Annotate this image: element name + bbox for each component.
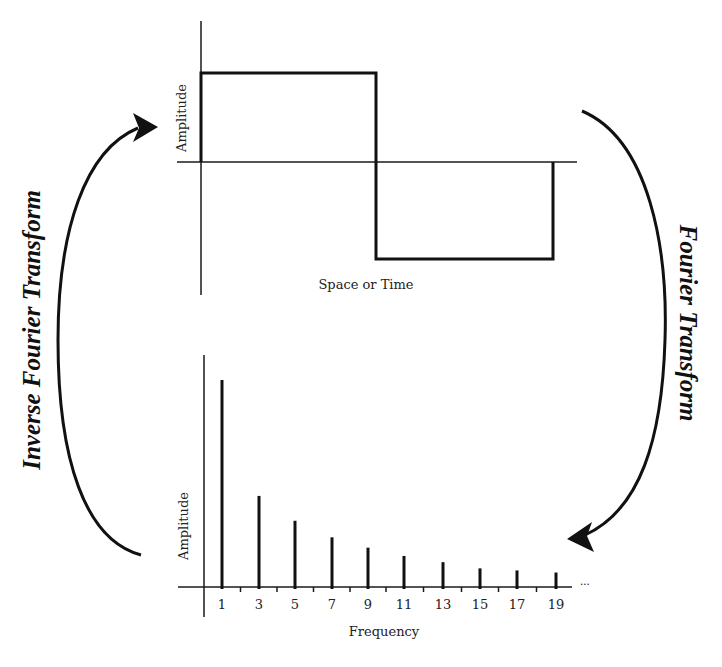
fourier-transform-label: Fourier Transform — [675, 223, 702, 421]
arrow-head-icon — [567, 522, 594, 552]
tick-label: 7 — [328, 597, 336, 612]
inverse-arrow-curve — [58, 128, 141, 555]
inverse-fourier-transform-label: Inverse Fourier Transform — [18, 190, 45, 471]
tick-label: 5 — [291, 597, 299, 612]
tick-label: 13 — [435, 597, 452, 612]
tick-labels: 135791113151719 — [218, 597, 564, 612]
tick-label: 15 — [472, 597, 489, 612]
inverse-fourier-transform-arrow: Inverse Fourier Transform — [18, 113, 158, 555]
top-y-axis-label: Amplitude — [174, 84, 189, 153]
top-plot: Amplitude Space or Time — [174, 21, 577, 295]
tick-label: 3 — [255, 597, 263, 612]
continuation-ellipsis: ... — [580, 573, 590, 588]
tick-label: 11 — [396, 597, 413, 612]
forward-arrow-curve — [582, 111, 665, 535]
tick-label: 1 — [218, 597, 226, 612]
tick-label: 17 — [509, 597, 526, 612]
square-wave-line — [201, 73, 553, 259]
bottom-y-axis-label: Amplitude — [176, 492, 191, 561]
fourier-transform-arrow: Fourier Transform — [567, 111, 702, 552]
tick-label: 9 — [364, 597, 372, 612]
fourier-diagram: Amplitude Space or Time 135791113151719 … — [0, 0, 722, 667]
bottom-plot: 135791113151719 ... Amplitude Frequency — [176, 355, 590, 639]
top-x-axis-label: Space or Time — [318, 277, 413, 292]
spectrum-bars — [222, 380, 556, 589]
bottom-x-axis-label: Frequency — [349, 624, 420, 639]
tick-label: 19 — [548, 597, 565, 612]
